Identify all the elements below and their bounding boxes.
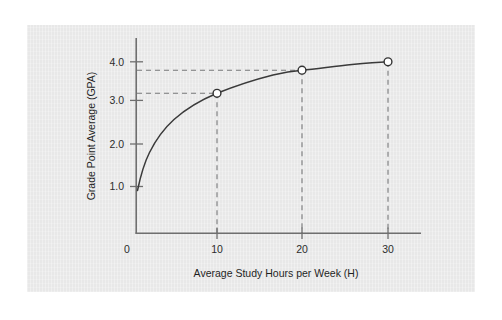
x-tick-label-30: 30 <box>382 243 394 255</box>
data-point-hours-30 <box>384 58 392 66</box>
x-axis-title: Average Study Hours per Week (H) <box>194 267 359 279</box>
y-tick-label-4-0: 4.0 <box>109 56 124 68</box>
data-point-hours-20 <box>298 66 306 74</box>
y-tick-labels: 4.0 3.0 2.0 1.0 <box>109 56 124 193</box>
axis-group <box>135 38 421 234</box>
x-tick-label-0: 0 <box>124 243 130 255</box>
y-axis-title: Grade Point Average (GPA) <box>85 72 97 201</box>
gpa-curve <box>138 62 389 191</box>
y-tick-label-2-0: 2.0 <box>109 138 124 150</box>
figure-root: 4.0 3.0 2.0 1.0 0 10 20 30 Grade Point A… <box>0 0 502 320</box>
y-tick-label-3-0: 3.0 <box>109 94 124 106</box>
guide-lines <box>137 62 388 233</box>
x-tick-label-20: 20 <box>296 243 308 255</box>
y-tick-label-1-0: 1.0 <box>109 180 124 192</box>
x-tick-label-10: 10 <box>211 243 223 255</box>
chart-plot-area: 4.0 3.0 2.0 1.0 0 10 20 30 Grade Point A… <box>0 0 502 320</box>
data-point-hours-10 <box>213 89 221 97</box>
x-tick-labels: 0 10 20 30 <box>124 243 394 255</box>
